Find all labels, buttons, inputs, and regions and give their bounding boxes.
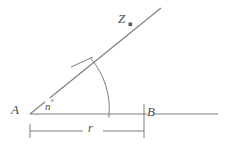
label-point-b: B — [147, 105, 155, 118]
construction-drawing — [0, 0, 229, 149]
label-angle-measure: n° — [45, 98, 54, 112]
degree-symbol: ° — [51, 97, 55, 107]
geometry-figure: A B Z n° r — [0, 0, 229, 149]
point-z-dot — [129, 23, 133, 27]
label-point-z: Z — [118, 12, 125, 25]
compass-arc — [91, 58, 110, 118]
label-vertex-a: A — [11, 103, 19, 116]
label-radius-r: r — [85, 122, 96, 134]
